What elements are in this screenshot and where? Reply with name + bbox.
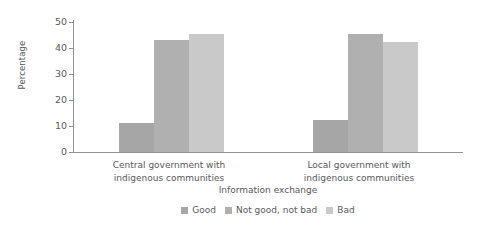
y-axis-tick-label: 40: [45, 43, 67, 53]
legend-item[interactable]: Good: [181, 205, 216, 215]
legend-swatch-icon: [181, 207, 188, 214]
y-axis-tick-label: 30: [45, 69, 67, 79]
category-label-line-1: Local government with: [268, 159, 450, 172]
x-axis-category-label-1: Local government with indigenous communi…: [268, 159, 450, 184]
x-axis-title: Information exchange: [73, 185, 463, 195]
y-axis-tick-mark: [69, 126, 73, 127]
bar: [189, 34, 224, 152]
bar-group: [269, 22, 464, 152]
x-axis-line: [73, 152, 463, 153]
bar: [348, 34, 383, 152]
legend-label: Bad: [337, 205, 354, 215]
category-label-line-2: indigenous communities: [268, 172, 450, 185]
y-axis-tick-label: 0: [45, 147, 67, 157]
category-label-line-1: Central government with: [78, 159, 260, 172]
legend-swatch-icon: [225, 207, 232, 214]
legend-item[interactable]: Not good, not bad: [225, 205, 317, 215]
bar: [313, 120, 348, 152]
bar: [383, 42, 418, 153]
y-axis-tick-mark: [69, 74, 73, 75]
bar-chart-figure: Percentage 01020304050 Central governmen…: [0, 0, 482, 230]
legend-item[interactable]: Bad: [326, 205, 354, 215]
y-axis-tick-label: 50: [45, 17, 67, 27]
y-axis-title: Percentage: [17, 10, 27, 120]
bar: [154, 40, 189, 152]
y-axis-tick-labels: 01020304050: [41, 0, 67, 230]
y-axis-tick-label: 10: [45, 121, 67, 131]
bar-group: [74, 22, 269, 152]
category-label-line-2: indigenous communities: [78, 172, 260, 185]
legend-label: Not good, not bad: [236, 205, 317, 215]
plot-area: [74, 22, 463, 152]
chart-legend: GoodNot good, not badBad: [73, 205, 463, 215]
legend-swatch-icon: [326, 207, 333, 214]
x-axis-category-label-0: Central government with indigenous commu…: [78, 159, 260, 184]
y-axis-tick-mark: [69, 152, 73, 153]
y-axis-tick-mark: [69, 100, 73, 101]
y-axis-tick-label: 20: [45, 95, 67, 105]
y-axis-tick-mark: [69, 22, 73, 23]
legend-label: Good: [192, 205, 216, 215]
y-axis-tick-mark: [69, 48, 73, 49]
bar: [119, 123, 154, 152]
